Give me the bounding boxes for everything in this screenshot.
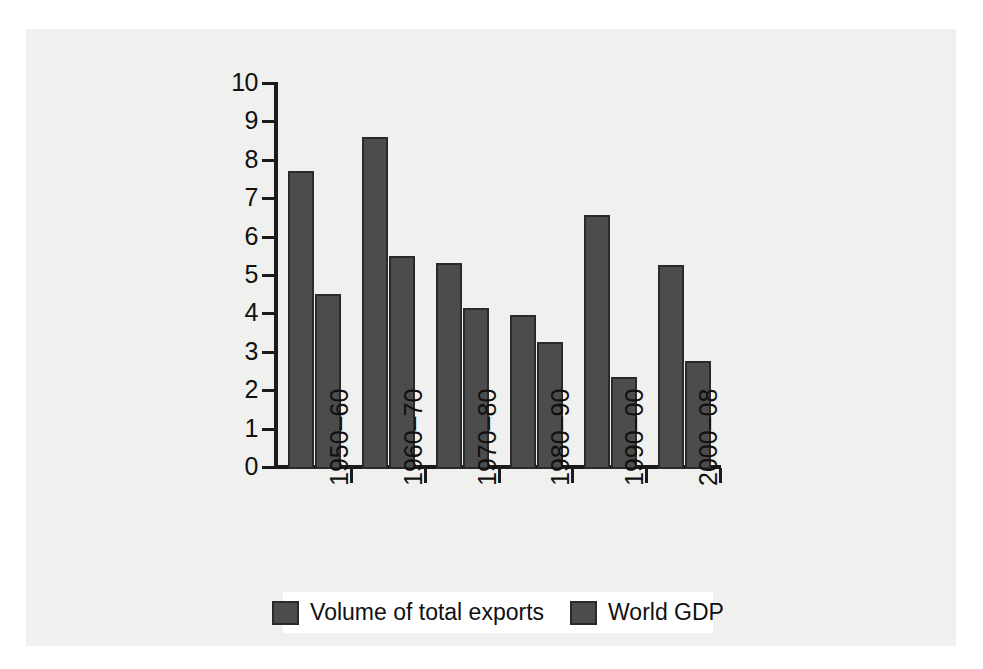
bar-chart-figure: 012345678910 1950–601960–701970–801980–9… [0, 0, 983, 669]
y-axis-tick-label-text: 7 [224, 185, 258, 210]
legend-swatch-icon [272, 601, 299, 625]
y-axis-tick-label: 9 [214, 108, 258, 133]
chart-legend: Volume of total exports World GDP [283, 592, 713, 633]
y-axis-tick-label-text: 9 [224, 108, 258, 133]
y-axis-tick [262, 466, 275, 469]
y-axis-tick [262, 389, 275, 392]
y-axis-tick-label-text: 1 [224, 416, 258, 441]
bar [436, 263, 462, 469]
legend-swatch-icon [570, 601, 597, 625]
x-axis-category-label: 1960–70 [401, 389, 426, 486]
y-axis-tick-label-text: 2 [224, 377, 258, 402]
y-axis-tick-label-text: 5 [224, 262, 258, 287]
y-axis-tick-label-text: 10 [224, 70, 258, 95]
y-axis-tick-label: 2 [214, 377, 258, 402]
legend-item-world-gdp: World GDP [570, 601, 724, 625]
y-axis-tick-label: 5 [214, 262, 258, 287]
legend-label: Volume of total exports [310, 601, 544, 624]
y-axis-tick-label: 8 [214, 147, 258, 172]
plot-area: 012345678910 1950–601960–701970–801980–9… [0, 0, 983, 669]
bar [362, 137, 388, 469]
y-axis-tick-label-text: 8 [224, 147, 258, 172]
x-axis-category-label: 1990–00 [622, 389, 647, 486]
x-axis-category-label: 2000–08 [696, 389, 721, 486]
y-axis-tick-label: 0 [214, 454, 258, 479]
y-axis-tick-label: 10 [214, 70, 258, 95]
x-axis-category-label: 1950–60 [327, 389, 352, 486]
y-axis-tick-label: 3 [214, 339, 258, 364]
bar [658, 265, 684, 469]
bar [510, 315, 536, 469]
y-axis-tick [262, 159, 275, 162]
legend-label: World GDP [608, 601, 724, 624]
bar [584, 215, 610, 469]
y-axis-tick [262, 197, 275, 200]
y-axis-tick-label: 6 [214, 224, 258, 249]
y-axis-tick [262, 236, 275, 239]
y-axis-tick-label-text: 6 [224, 224, 258, 249]
x-axis-category-label: 1970–80 [475, 389, 500, 486]
bar [288, 171, 314, 469]
y-axis-tick-label-text: 3 [224, 339, 258, 364]
y-axis-tick-label: 1 [214, 416, 258, 441]
y-axis-tick [262, 82, 275, 85]
y-axis-tick [262, 120, 275, 123]
x-axis-category-label: 1980–90 [548, 389, 573, 486]
y-axis-tick-label: 4 [214, 300, 258, 325]
y-axis-tick [262, 274, 275, 277]
y-axis-tick [262, 351, 275, 354]
y-axis-tick-label-text: 0 [224, 454, 258, 479]
y-axis-tick [262, 312, 275, 315]
y-axis-tick-label-text: 4 [224, 300, 258, 325]
y-axis-tick-label: 7 [214, 185, 258, 210]
legend-item-volume-of-total-exports: Volume of total exports [272, 601, 544, 625]
y-axis-tick [262, 428, 275, 431]
